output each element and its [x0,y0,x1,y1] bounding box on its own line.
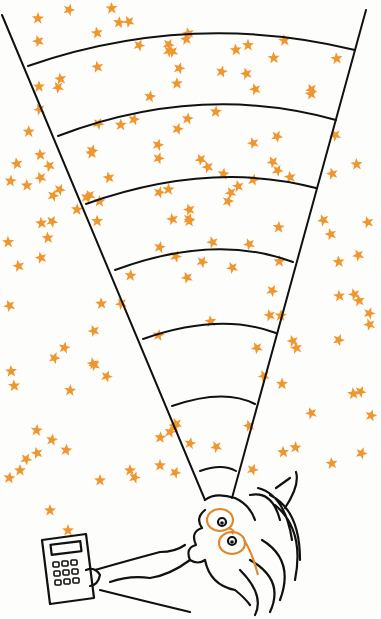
star-icon [91,60,105,74]
star-icon [41,231,54,244]
star-icon [21,179,33,191]
star-icon [215,64,229,78]
star-icon [248,81,263,96]
star-icon [242,39,254,51]
star-icon [47,350,62,365]
star-icon [262,308,276,322]
star-icon [168,464,184,479]
star-icon [105,2,118,14]
star-icon [278,33,291,46]
star-icon [183,436,197,450]
star-icon [249,339,265,355]
star-icon [34,250,49,264]
star-icon [168,248,184,263]
star-icon [332,255,345,268]
star-icon [33,80,45,92]
star-icon [11,259,25,273]
stars [1,2,378,536]
star-icon [264,282,280,298]
star-icon [241,236,257,251]
star-icon [170,121,185,136]
star-icon [61,2,76,17]
star-icon [62,524,74,536]
star-icon [246,172,260,186]
star-icon [165,212,179,226]
star-icon [179,269,195,284]
star-icon [90,26,104,39]
calculator-display [51,541,82,555]
star-icon [162,183,174,195]
star-icon [246,135,261,150]
star-icon [33,169,49,185]
star-icon [44,213,60,229]
star-icon [360,214,375,228]
cone-band [28,33,355,66]
star-icon [35,216,48,229]
star-icon [30,423,43,436]
star-icon [95,297,108,309]
cone-band [172,396,255,406]
star-icon [151,137,166,152]
star-icon [5,365,18,377]
star-icon [154,459,166,471]
star-icon [364,408,379,422]
cone-band [143,324,276,339]
star-icon [14,464,26,476]
star-icon [99,368,114,383]
hair [240,472,300,615]
star-icon [124,269,137,281]
star-icon [333,289,346,302]
star-icon [115,118,127,130]
star-icon [224,259,240,275]
star-icon [171,77,183,89]
star-icon [350,158,363,170]
star-icon [23,125,35,137]
star-icon [229,43,242,56]
calculator-keys [53,560,79,585]
star-icon [303,405,318,420]
star-icon [315,212,331,228]
star-icon [2,236,14,248]
star-icon [325,166,340,180]
star-icon [181,112,194,125]
star-icon [34,148,47,160]
cone-band [200,467,236,471]
star-icon [272,221,285,233]
star-icon [331,332,346,347]
star-icon [3,471,16,484]
star-icon [102,170,116,184]
star-icon [208,438,224,454]
star-icon [151,150,166,165]
star-icon [362,316,377,331]
star-icon [57,340,71,354]
star-icon [354,445,369,460]
star-icon [267,51,280,63]
star-icon [8,379,21,391]
star-icon [91,215,103,227]
cone-right-edge [232,10,366,498]
star-icon [64,384,77,396]
star-icon [172,60,187,75]
star-icon [143,89,157,102]
star-icon [44,504,56,516]
star-icon [205,234,220,249]
star-icon [31,33,46,48]
star-icon [86,323,101,338]
star-icon [45,433,59,447]
star-icon [154,431,167,443]
star-icon [41,158,57,173]
star-icon [10,156,24,169]
star-icon [269,128,285,144]
star-icon [209,105,222,118]
star-icon [1,297,17,312]
star-icon [221,193,236,207]
star-icon [350,247,366,263]
star-icon [94,474,106,486]
star-icon [276,378,288,390]
cone-band [86,177,316,204]
man-figure [42,472,300,615]
star-icon [4,174,17,187]
star-icon [245,461,260,476]
star-icon [362,305,377,320]
star-icon [277,445,290,457]
